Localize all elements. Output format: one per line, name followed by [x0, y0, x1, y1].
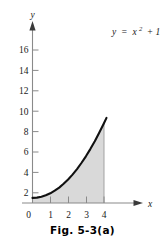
x-tick-label-3: 3 — [84, 210, 89, 220]
y-axis-label: y — [29, 10, 35, 20]
y-tick-label-12: 12 — [19, 86, 29, 96]
y-axis-ticks — [33, 50, 39, 193]
figure-container: 2 4 6 8 10 12 14 16 0 1 2 3 4 y x y = x … — [0, 0, 165, 243]
y-tick-label-8: 8 — [24, 127, 29, 137]
y-tick-label-14: 14 — [19, 66, 29, 76]
shaded-region-under-curve — [33, 123, 105, 203]
y-tick-label-4: 4 — [24, 168, 29, 178]
y-tick-label-10: 10 — [19, 107, 29, 117]
y-axis-arrowhead — [29, 21, 35, 31]
x-axis-label: x — [147, 199, 153, 209]
x-axis-arrowhead — [134, 200, 144, 206]
curve-equation-label: y = x 2 + 1 — [111, 23, 160, 37]
plot-area: 2 4 6 8 10 12 14 16 0 1 2 3 4 y x y = x … — [0, 0, 165, 243]
x-tick-label-2: 2 — [66, 210, 71, 220]
equation-relation: = — [121, 27, 127, 37]
equation-base: x — [131, 27, 137, 37]
y-tick-label-16: 16 — [19, 45, 29, 55]
y-tick-label-6: 6 — [24, 147, 29, 157]
figure-caption: Fig. 5-3(a) — [0, 224, 165, 236]
y-tick-label-2: 2 — [24, 188, 29, 198]
origin-label: 0 — [26, 210, 31, 220]
equation-tail: + 1 — [147, 27, 161, 37]
x-tick-label-1: 1 — [48, 210, 53, 220]
x-tick-label-4: 4 — [102, 210, 107, 220]
equation-lhs: y — [111, 27, 117, 37]
equation-exponent: 2 — [139, 25, 143, 32]
